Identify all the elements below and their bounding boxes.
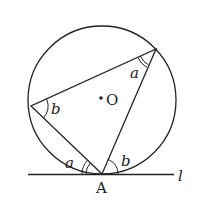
angle-arc-left-b	[44, 99, 49, 118]
center-label-O: O	[106, 91, 118, 109]
angle-label-A-left: a	[65, 154, 74, 172]
angle-label-A-right: b	[121, 152, 131, 170]
line-label-l: l	[178, 167, 183, 185]
angle-label-top-right: a	[130, 64, 139, 82]
center-dot	[99, 96, 103, 100]
geometry-diagram: a b a b O A l	[0, 0, 200, 223]
point-label-A: A	[95, 179, 107, 197]
angle-arc-A-right-b	[108, 160, 118, 175]
angle-label-left: b	[51, 100, 61, 118]
